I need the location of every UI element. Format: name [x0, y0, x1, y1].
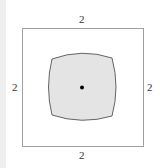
label-left: 2: [12, 82, 18, 93]
diagram-canvas: [0, 0, 160, 168]
label-top: 2: [79, 14, 85, 25]
label-bottom: 2: [79, 150, 85, 161]
center-point: [80, 86, 84, 90]
label-right: 2: [147, 82, 153, 93]
